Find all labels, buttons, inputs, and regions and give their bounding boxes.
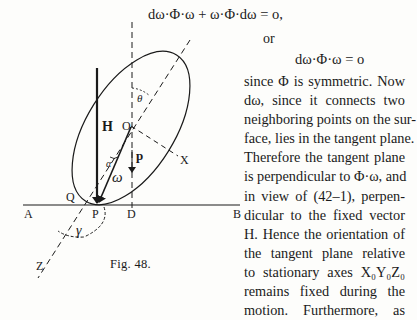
figure-caption: Fig. 48. (110, 257, 151, 272)
label-omega: ω (112, 169, 123, 185)
label-P: P (92, 207, 99, 221)
label-B: B (233, 207, 241, 221)
label-alpha: α (106, 158, 112, 169)
vector-omega (99, 127, 131, 202)
label-H: H (102, 119, 113, 134)
label-Z: Z (36, 259, 43, 273)
label-theta: θ (137, 92, 143, 104)
label-Q: Q (66, 190, 75, 204)
z-axis-dashed (38, 40, 190, 278)
label-gamma: γ (76, 223, 82, 238)
label-D: D (127, 207, 136, 221)
label-X: X (180, 153, 189, 167)
text-line: motion. Furthermore, as (244, 301, 405, 320)
label-O: O (122, 119, 131, 133)
label-p: p (136, 148, 143, 163)
label-A: A (24, 207, 33, 221)
